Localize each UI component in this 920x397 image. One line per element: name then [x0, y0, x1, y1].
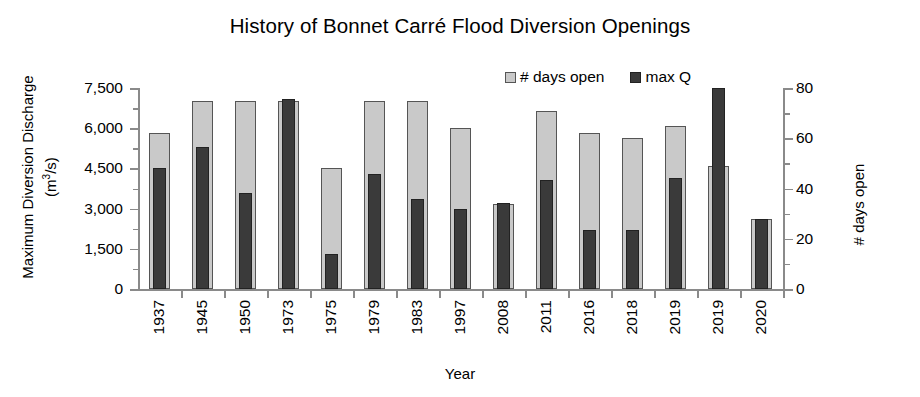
y-axis-right-title: # days open	[850, 125, 867, 285]
y-axis-right-tick-label: 40	[796, 180, 836, 198]
bar-max-q	[196, 147, 209, 289]
x-axis-tick-label: 2011	[537, 300, 559, 333]
x-axis-tick	[310, 290, 312, 298]
x-axis-tick	[740, 290, 742, 298]
bar-max-q	[669, 178, 682, 289]
y-axis-right-minor-tick	[784, 214, 790, 216]
x-axis-tick-label: 2008	[494, 300, 516, 334]
y-axis-left-tick-label: 0	[65, 280, 123, 298]
x-axis-tick-label: 2016	[580, 300, 602, 334]
bar-group	[493, 88, 514, 289]
bar-max-q	[583, 230, 596, 289]
x-axis-tick	[568, 290, 570, 298]
y-axis-right-tick-label: 60	[796, 129, 836, 147]
x-axis-tick-label: 2018	[623, 300, 645, 334]
bar-group	[364, 88, 385, 289]
y-axis-right-minor-tick	[784, 113, 790, 115]
x-axis-tick	[611, 290, 613, 298]
chart-title: History of Bonnet Carré Flood Diversion …	[0, 14, 920, 38]
bar-group	[407, 88, 428, 289]
legend-label-days-open: # days open	[520, 68, 604, 86]
bar-group	[622, 88, 643, 289]
bar-group	[708, 88, 729, 289]
x-axis-tick	[224, 290, 226, 298]
bar-group	[235, 88, 256, 289]
x-axis-tick-label: 1997	[451, 300, 473, 334]
y-axis-right-minor-tick	[784, 264, 790, 266]
y-axis-left-tick-label: 6,000	[65, 119, 123, 137]
legend-label-max-q: max Q	[645, 68, 691, 86]
y-axis-left-title-line2: (m3/s)	[42, 157, 59, 197]
legend-swatch-max-q	[630, 72, 641, 83]
x-axis-tick-label: 2019	[666, 300, 688, 334]
bar-max-q	[411, 199, 424, 289]
bar-group	[278, 88, 299, 289]
y-axis-left-tick-label: 1,500	[65, 240, 123, 258]
y-axis-left-title: Maximum Diversion Discharge (m3/s)	[18, 52, 60, 302]
y-axis-left-tick-label: 3,000	[65, 200, 123, 218]
bar-max-q	[153, 168, 166, 289]
y-axis-right-major-tick	[784, 289, 793, 291]
x-axis-tick	[525, 290, 527, 298]
legend-item-days-open: # days open	[505, 68, 604, 86]
x-axis-line	[138, 289, 785, 291]
x-axis-tick	[267, 290, 269, 298]
x-axis-tick	[353, 290, 355, 298]
x-axis-tick-label: 2019	[709, 300, 731, 334]
y-axis-right-minor-tick	[784, 163, 790, 165]
chart-container: History of Bonnet Carré Flood Diversion …	[0, 0, 920, 397]
bar-group	[192, 88, 213, 289]
x-axis-tick	[654, 290, 656, 298]
bar-group	[536, 88, 557, 289]
bar-group	[450, 88, 471, 289]
chart-legend: # days open max Q	[505, 68, 691, 86]
x-axis-tick-label: 1979	[365, 300, 387, 334]
bar-max-q	[540, 180, 553, 289]
x-axis-tick	[482, 290, 484, 298]
x-axis-tick-label: 1937	[150, 300, 172, 334]
y-axis-right-major-tick	[784, 88, 793, 90]
bar-max-q	[626, 230, 639, 289]
legend-item-max-q: max Q	[630, 68, 691, 86]
x-axis-tick	[783, 290, 785, 298]
x-axis-tick	[697, 290, 699, 298]
y-axis-right-major-tick	[784, 189, 793, 191]
bar-group	[321, 88, 342, 289]
x-axis-tick	[439, 290, 441, 298]
x-axis-tick-label: 1945	[193, 300, 215, 334]
y-axis-left-tick-label: 4,500	[65, 159, 123, 177]
legend-swatch-days-open	[505, 72, 516, 83]
y-axis-right-tick-label: 0	[796, 280, 836, 298]
y-axis-right-major-tick	[784, 239, 793, 241]
x-axis-tick-label: 1983	[408, 300, 430, 334]
bar-group	[149, 88, 170, 289]
bar-group	[579, 88, 600, 289]
x-axis-tick-label: 1973	[279, 300, 301, 334]
x-axis-tick-label: 1950	[236, 300, 258, 334]
bar-max-q	[497, 203, 510, 289]
y-axis-left-tick-label: 7,500	[65, 79, 123, 97]
plot-area	[138, 88, 784, 289]
x-axis-tick-label: 2020	[752, 300, 774, 334]
bar-max-q	[454, 209, 467, 289]
bar-max-q	[239, 193, 252, 289]
bar-group	[665, 88, 686, 289]
bar-max-q	[325, 254, 338, 289]
x-axis-title: Year	[120, 365, 800, 382]
bar-max-q	[755, 219, 768, 289]
y-axis-right-tick-label: 20	[796, 230, 836, 248]
y-axis-right-major-tick	[784, 138, 793, 140]
bar-group	[751, 88, 772, 289]
y-axis-right-tick-label: 80	[796, 79, 836, 97]
x-axis-tick	[396, 290, 398, 298]
bar-max-q	[368, 174, 381, 289]
bar-max-q	[282, 99, 295, 289]
bar-max-q	[712, 88, 725, 289]
y-axis-left-title-line1: Maximum Diversion Discharge	[19, 75, 36, 278]
x-axis-tick-label: 1975	[322, 300, 344, 334]
y-axis-left-major-tick	[130, 289, 139, 291]
x-axis-tick	[181, 290, 183, 298]
